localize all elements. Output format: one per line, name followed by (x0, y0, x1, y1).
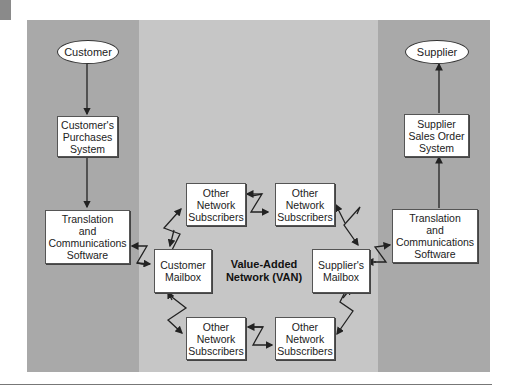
customer-node: Customer (57, 40, 119, 64)
supplier-label: Supplier (417, 46, 457, 58)
supplier-sales-order-system-box: Supplier Sales Order System (404, 114, 469, 157)
customer-purchases-system-box: Customer's Purchases System (57, 116, 118, 157)
supplier-node: Supplier (405, 40, 469, 64)
customer-mailbox-box: Customer Mailbox (154, 249, 212, 293)
supplier-translation-software-box: Translation and Communications Software (392, 209, 478, 263)
other-subscribers-top-left-box: Other Network Subscribers (186, 183, 246, 226)
other-subscribers-bottom-right-box: Other Network Subscribers (275, 317, 335, 360)
customer-translation-software-box: Translation and Communications Software (45, 210, 130, 264)
customer-label: Customer (64, 46, 112, 58)
van-label: Value-Added Network (VAN) (224, 258, 304, 284)
supplier-mailbox-box: Supplier's Mailbox (312, 249, 370, 293)
other-subscribers-bottom-left-box: Other Network Subscribers (186, 317, 246, 360)
other-subscribers-top-right-box: Other Network Subscribers (275, 183, 335, 226)
